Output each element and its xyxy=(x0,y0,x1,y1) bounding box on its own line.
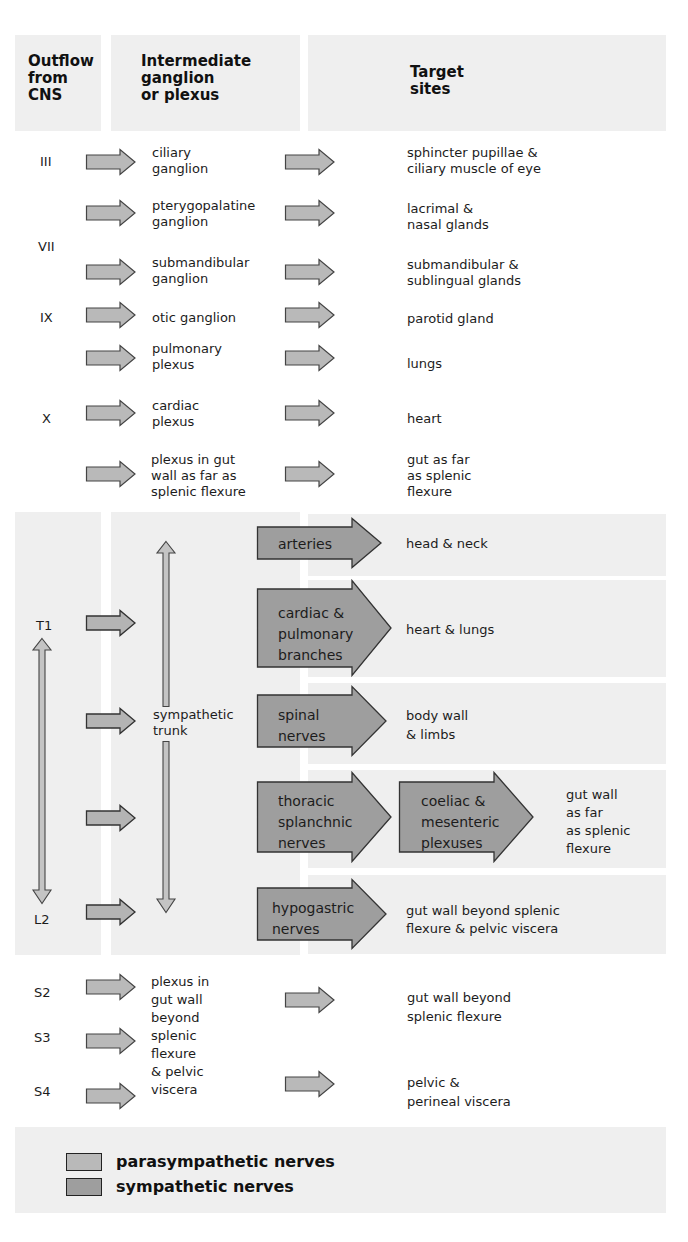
target-parotid: parotid gland xyxy=(407,311,494,327)
target-pelvic-perineal: pelvic & perineal viscera xyxy=(407,1073,511,1111)
target-body-wall-limbs: body wall & limbs xyxy=(406,706,468,744)
sympathetic-trunk-label: sympathetic trunk xyxy=(153,707,234,739)
target-gut-to-splenic: gut as far as splenic flexure xyxy=(407,452,472,500)
para-arrow-icon xyxy=(86,899,136,925)
para-arrow-icon xyxy=(86,708,136,734)
plexus-cardiac: cardiac plexus xyxy=(152,398,199,430)
relay-coeliac-mesenteric: coeliac & mesenteric plexuses xyxy=(421,791,499,854)
para-arrow-icon xyxy=(86,149,136,175)
nerve-thoracic-splanchnic: thoracic splanchnic nerves xyxy=(278,791,353,854)
legend-label: parasympathetic nerves xyxy=(116,1152,335,1171)
ganglion-pterygopalatine: pterygopalatine ganglion xyxy=(152,198,255,230)
target-eye: sphincter pupillae & ciliary muscle of e… xyxy=(407,145,541,177)
nerve-spinal: spinal nerves xyxy=(278,705,325,747)
para-arrow-icon xyxy=(285,200,335,226)
para-arrow-icon xyxy=(285,259,335,285)
para-arrow-icon xyxy=(285,461,335,487)
target-lacrimal-nasal: lacrimal & nasal glands xyxy=(407,201,489,233)
origin-III: III xyxy=(40,154,52,170)
para-arrow-icon xyxy=(86,302,136,328)
target-submandibular-sublingual: submandibular & sublingual glands xyxy=(407,257,521,289)
para-arrow-icon xyxy=(285,302,335,328)
origin-L2: L2 xyxy=(34,912,50,928)
plexus-pulmonary: pulmonary plexus xyxy=(152,341,222,373)
para-arrow-icon xyxy=(86,1028,136,1054)
target-gut-beyond-splenic: gut wall beyond splenic flexure xyxy=(407,988,511,1026)
origin-S3: S3 xyxy=(34,1030,51,1046)
origin-T1: T1 xyxy=(36,618,52,634)
header-outflow: Outflow from CNS xyxy=(28,53,94,104)
nerve-arteries: arteries xyxy=(278,536,332,552)
para-arrow-icon xyxy=(86,345,136,371)
para-arrow-icon xyxy=(86,1083,136,1109)
para-arrow-icon xyxy=(285,400,335,426)
origin-VII: VII xyxy=(38,239,55,255)
ganglion-otic: otic ganglion xyxy=(152,310,236,326)
origin-S4: S4 xyxy=(34,1084,51,1100)
para-arrow-icon xyxy=(86,610,136,636)
ganglion-ciliary: ciliary ganglion xyxy=(152,145,208,177)
legend-item-parasympathetic: parasympathetic nerves xyxy=(66,1152,335,1171)
target-gut-wall-to-splenic: gut wall as far as splenic flexure xyxy=(566,786,631,858)
para-arrow-icon xyxy=(285,1071,335,1097)
plexus-gut-wall-pelvic: plexus in gut wall beyond splenic flexur… xyxy=(151,973,209,1099)
target-heart: heart xyxy=(407,411,442,427)
spinal-range-double-arrow-icon xyxy=(32,638,52,904)
para-arrow-icon xyxy=(86,200,136,226)
legend-label: sympathetic nerves xyxy=(116,1177,294,1196)
para-arrow-icon xyxy=(86,974,136,1000)
para-arrow-icon xyxy=(285,345,335,371)
legend-item-sympathetic: sympathetic nerves xyxy=(66,1177,294,1196)
target-gut-beyond-splenic-pelvic: gut wall beyond splenic flexure & pelvic… xyxy=(406,902,560,938)
para-arrow-icon xyxy=(285,149,335,175)
ganglion-submandibular: submandibular ganglion xyxy=(152,255,249,287)
target-lungs: lungs xyxy=(407,356,442,372)
plexus-gut-wall-splenic: plexus in gut wall as far as splenic fle… xyxy=(151,452,246,500)
origin-X: X xyxy=(42,411,51,427)
header-panel-target xyxy=(308,35,666,131)
para-arrow-icon xyxy=(86,259,136,285)
sympathetic-trunk-down-arrow-icon xyxy=(156,741,176,913)
header-target: Target sites xyxy=(410,64,464,98)
origin-IX: IX xyxy=(40,310,53,326)
origin-S2: S2 xyxy=(34,985,51,1001)
sympathetic-swatch-icon xyxy=(66,1178,102,1196)
target-heart-lungs: heart & lungs xyxy=(406,622,494,638)
para-arrow-icon xyxy=(86,461,136,487)
para-arrow-icon xyxy=(86,400,136,426)
para-arrow-icon xyxy=(285,987,335,1013)
header-intermediate: Intermediate ganglion or plexus xyxy=(141,53,251,104)
parasympathetic-swatch-icon xyxy=(66,1153,102,1171)
sympathetic-trunk-up-arrow-icon xyxy=(156,541,176,707)
para-arrow-icon xyxy=(86,805,136,831)
target-head-neck: head & neck xyxy=(406,536,488,552)
nerve-cardiac-pulmonary: cardiac & pulmonary branches xyxy=(278,603,353,666)
nerve-hypogastric: hypogastric nerves xyxy=(272,898,354,940)
